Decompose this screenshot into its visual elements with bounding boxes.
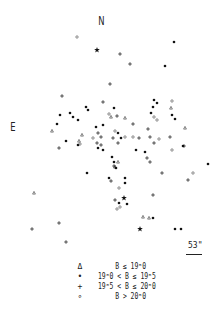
legend: Δ B ≤ 19ᵐ0 • 19ᵐ0 < B ≤ 19ᵐ5 + 19ᵐ5 < B … [74,262,146,302]
star-point-dot [153,99,156,102]
star-point-dot [111,156,114,159]
star-point-dot [164,65,167,68]
star-point-dot [56,123,59,126]
star-point-plus [109,179,113,183]
star-point-circle [153,116,155,118]
star-point-triangle [51,129,54,132]
star-point-plus [30,227,34,231]
star-point-plus [146,127,150,131]
star-point-plus [57,146,61,150]
star-point-triangle [142,215,145,218]
star-point-dot [174,228,177,231]
star-point-dot [97,147,100,150]
star-point-plus [99,135,103,139]
star-point-dot [108,177,111,180]
star-point-dot [72,116,75,119]
star-point-plus [128,62,132,66]
star-point-plus [137,136,141,140]
star-point-dot [87,109,90,112]
star-point-triangle [78,139,81,142]
star-point-dot [207,163,210,166]
star-point-plus [64,240,68,244]
star-point-triangle [170,106,173,109]
star-point-dot [102,124,105,127]
star-point-plus [152,141,156,145]
star-point-circle [156,119,158,121]
star-point-circle [171,149,173,151]
star-point-plus [96,131,100,135]
plus-icon: + [74,282,86,292]
star-point-circle [118,187,120,189]
star-point-dot [77,119,80,122]
star-point-circle [192,172,194,174]
star-point-plus [99,143,103,147]
legend-row: Δ B ≤ 19ᵐ0 [74,262,146,272]
star-point-dot [120,137,123,140]
star-point-dot [171,114,174,117]
star-point-dot [113,107,116,110]
star-point-dot [65,140,68,143]
star-point-plus [118,52,122,56]
star-point-dot [118,202,121,205]
star-point-circle [116,208,118,210]
star-point-plus [108,82,112,86]
legend-label: B > 20ᵐ0 [98,292,146,302]
star-point-circle [132,136,134,138]
star-point-circle [124,136,126,138]
star-point-plus [60,94,64,98]
star-point-triangle [184,126,187,129]
star-point-plus [111,136,115,140]
star-point-dot [113,161,116,164]
star-point-dot [144,151,147,154]
star-point-triangle [148,216,151,219]
star-point-dot [95,126,98,129]
star-point-triangle [110,115,113,118]
star-point-dot [135,149,138,152]
star-point-plus [168,135,172,139]
east-label: E [10,120,15,134]
star-point-circle [114,130,116,132]
star-point-plus [151,193,155,197]
star-point-circle [79,143,81,145]
star-point-plus [145,156,149,160]
scale-bar [186,254,202,255]
star-point-triangle [81,133,84,136]
legend-row: + 19ᵐ5 < B ≤ 20ᵐ0 [74,282,146,292]
star-point-plus [160,171,164,175]
star-point-dot [126,203,129,206]
star-point-dot [150,112,153,115]
star-point-dot [117,132,120,135]
legend-label: 19ᵐ5 < B ≤ 20ᵐ0 [98,282,146,292]
legend-label: 19ᵐ0 < B ≤ 19ᵐ5 [98,272,146,282]
star-point-plus [186,178,190,182]
triangle-icon: Δ [74,262,86,272]
star-point-dot [86,172,89,175]
star-icon [121,195,127,200]
star-point-dot [174,118,177,121]
legend-row: ∘ B > 20ᵐ0 [74,292,146,302]
filled-dot-icon: • [74,272,86,282]
star-point-plus [148,160,152,164]
star-point-circle [76,36,78,38]
star-point-circle [171,100,173,102]
star-point-circle [158,138,160,140]
star-point-dot [180,228,183,231]
star-point-dot [173,41,176,44]
star-point-dot [69,112,72,115]
star-icon [137,226,143,231]
star-point-circle [119,206,121,208]
star-point-triangle [33,191,36,194]
star-point-triangle [124,116,127,119]
star-point-dot [115,167,118,170]
star-point-circle [92,137,94,139]
star-point-plus [116,141,120,145]
star-icon [94,47,100,52]
star-point-dot [102,149,105,152]
star-point-plus [113,198,117,202]
star-point-plus [131,122,135,126]
star-point-circle [108,113,110,115]
star-point-dot [152,106,155,109]
star-point-dot [124,177,127,180]
star-point-dot [152,217,155,220]
star-point-dot [59,114,62,117]
